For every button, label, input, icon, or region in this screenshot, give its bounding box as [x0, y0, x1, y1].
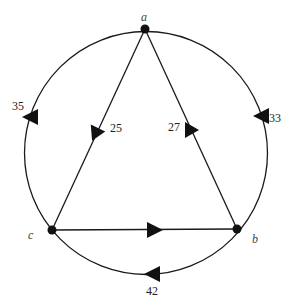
- node-label-b: b: [252, 232, 258, 246]
- node-c: [48, 226, 57, 235]
- node-label-a: a: [141, 10, 147, 24]
- arrow-icon-b-c-outer: [144, 266, 160, 282]
- directed-graph-diagram: a b c 25 27 35 33 42: [0, 0, 296, 308]
- edge-c-b: [52, 229, 237, 230]
- arrow-icon-b-a: [185, 122, 199, 138]
- outer-circle: [25, 32, 268, 275]
- node-a: [141, 25, 150, 34]
- weight-label-b-c-outer: 42: [146, 284, 158, 298]
- node-b: [233, 225, 242, 234]
- weight-label-a-c: 25: [110, 121, 122, 135]
- weight-label-a-b-outer: 33: [269, 111, 281, 125]
- arrow-icon-a-b-outer: [253, 108, 269, 124]
- arrow-icon-c-b: [147, 222, 163, 238]
- weight-label-b-a: 27: [168, 120, 180, 134]
- arrow-icon-c-a-outer: [22, 109, 38, 125]
- node-label-c: c: [28, 228, 34, 242]
- weight-label-c-a-outer: 35: [12, 99, 24, 113]
- arrow-icon-a-c: [85, 125, 105, 144]
